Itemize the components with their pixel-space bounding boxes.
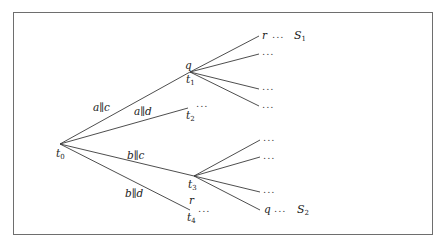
edge-t1-leaf-1 [190,36,259,72]
set-label-s1: S1 [294,29,306,43]
edge-label-a-c: a∥c [93,101,110,113]
leaf-t1-4-dots: ... [262,99,275,110]
leaf-t1-1-state-r: r [262,29,268,41]
leaf-t3-3-dots: ... [263,184,276,195]
edge-t3-leaf-2 [194,157,260,176]
node-t2-continuation: ... [196,98,209,109]
node-t4-state-r: r [189,194,195,206]
leaf-t1-2-dots: ... [262,46,275,57]
edge-t0-t1 [60,72,190,144]
leaf-t3-1-dots: ... [263,132,276,143]
node-t0-label: t0 [56,147,65,161]
node-t4-label: t4 [187,211,196,225]
node-t4-continuation: ... [198,203,211,214]
edge-t3-leaf-1 [194,140,260,176]
node-t1-label: t1 [186,73,195,87]
edge-t1-leaf-2 [190,54,259,72]
leaf-t3-2-dots: ... [263,150,276,161]
edge-label-b-c: b∥c [127,149,145,161]
leaf-t1-3-dots: ... [262,81,275,92]
node-t3-label: t3 [188,178,197,192]
leaf-t3-4-dots: ... [274,203,287,214]
node-t1-state-q: q [185,59,192,71]
edge-label-b-d: b∥d [125,187,144,199]
tree-diagram: t0 a∥c a∥d b∥c b∥d q t1 ... t2 t3 r ... … [0,0,445,245]
edge-t1-leaf-3 [190,72,259,89]
leaf-t3-4-state-q: q [264,203,271,215]
node-t2-label: t2 [186,109,195,123]
set-label-s2: S2 [297,203,309,217]
edge-label-a-d: a∥d [134,105,152,117]
edge-t0-t4 [60,144,190,210]
edge-t0-t2 [60,108,188,144]
edge-t3-leaf-3 [194,176,260,192]
leaf-t1-1-dots: ... [272,29,285,40]
